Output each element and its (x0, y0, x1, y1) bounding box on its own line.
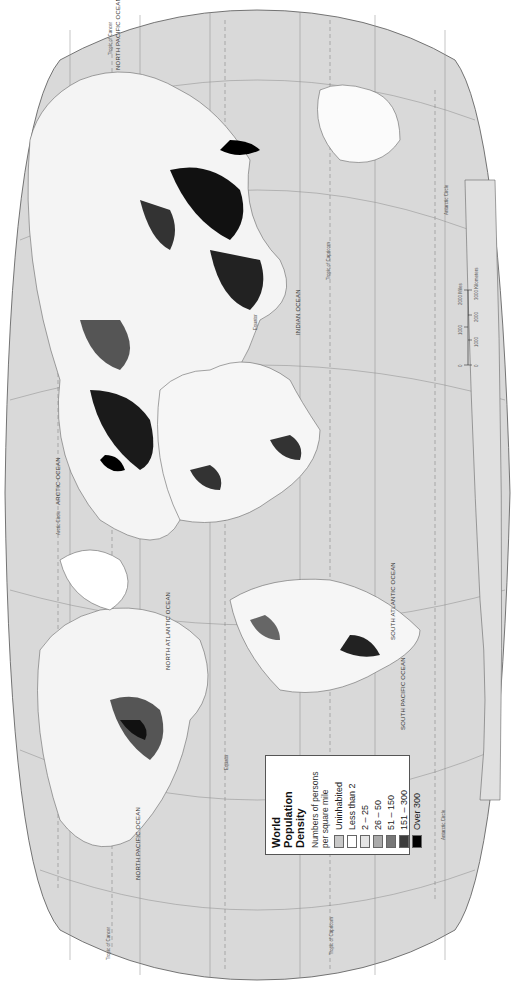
legend-item-151-300: 151 – 300 (397, 762, 410, 848)
legend-title-line1: World Population (270, 762, 294, 848)
label-antarctic-circle-east: Antarctic Circle (444, 184, 449, 215)
label-arctic: ARCTIC OCEAN (55, 457, 61, 505)
label-south-pacific: SOUTH PACIFIC OCEAN (400, 657, 406, 730)
swatch-151-300 (399, 835, 409, 848)
label-tropic-capricorn-west: Tropic of Capricorn (329, 916, 334, 955)
label-tropic-capricorn-east: Tropic of Capricorn (326, 241, 331, 280)
label-indian: INDIAN OCEAN (295, 289, 301, 335)
label-north-pacific-east: NORTH PACIFIC OCEAN (115, 0, 121, 70)
legend-item-over-300: Over 300 (410, 762, 423, 848)
legend-title-line2: Density (294, 762, 306, 848)
label-tropic-cancer-east: Tropic of Cancer (108, 21, 113, 55)
scale-miles-1000: 1000 (458, 324, 463, 335)
label-arctic-circle: Arctic Circle (56, 511, 61, 535)
scale-km-3000: 3000 Kilometers (474, 267, 479, 300)
legend-subtitle: Numbers of persons per square mile (310, 762, 330, 848)
swatch-26-50 (373, 835, 383, 848)
swatch-51-150 (386, 835, 396, 848)
legend-item-uninhabited: Uninhabited (332, 762, 345, 848)
legend: World Population Density Numbers of pers… (265, 755, 410, 855)
label-tropic-cancer-west: Tropic of Cancer (106, 926, 111, 960)
world-population-density-map: NORTH PACIFIC OCEAN NORTH ATLANTIC OCEAN… (0, 0, 515, 987)
swatch-less-than-2 (347, 835, 357, 848)
legend-title: World Population Density (270, 762, 306, 848)
legend-item-26-50: 26 – 50 (371, 762, 384, 848)
scale-km-1000: 1000 (474, 336, 479, 347)
swatch-uninhabited (334, 835, 344, 848)
label-equator-east: Equator (253, 314, 258, 330)
legend-item-51-150: 51 – 150 (384, 762, 397, 848)
legend-subtitle-line1: Numbers of persons (310, 762, 320, 848)
swatch-over-300 (412, 835, 422, 848)
legend-label: Over 300 (412, 793, 422, 830)
legend-label: 51 – 150 (386, 795, 396, 830)
label-equator-west: Equator (224, 754, 229, 770)
legend-label: 151 – 300 (399, 790, 409, 830)
legend-label: 26 – 50 (373, 800, 383, 830)
legend-label: Less than 2 (347, 783, 357, 830)
swatch-2-25 (360, 835, 370, 848)
label-antarctic-circle-west: Antarctic Circle (441, 809, 446, 840)
legend-item-2-25: 2 – 25 (358, 762, 371, 848)
scale-km-2000: 2000 (474, 311, 479, 322)
legend-label: 2 – 25 (360, 805, 370, 830)
legend-label: Uninhabited (334, 782, 344, 830)
label-south-atlantic: SOUTH ATLANTIC OCEAN (390, 562, 396, 640)
legend-subtitle-line2: per square mile (320, 762, 330, 848)
label-north-pacific-west: NORTH PACIFIC OCEAN (135, 807, 141, 880)
scale-miles-2000: 2000 Miles (458, 282, 463, 305)
label-north-atlantic: NORTH ATLANTIC OCEAN (165, 592, 171, 670)
legend-item-less-than-2: Less than 2 (345, 762, 358, 848)
